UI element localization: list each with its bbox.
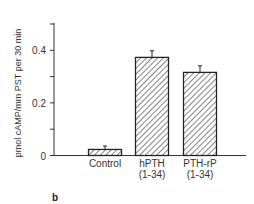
bar [184,72,217,155]
y-tick-label: 0.4 [32,45,46,56]
bars: ControlhPTH(1-34)PTH-rP(1-34) [89,51,217,180]
x-tick-sublabel: (1-34) [187,169,214,180]
bar-chart: 00.20.4 ControlhPTH(1-34)PTH-rP(1-34) pm… [0,0,254,204]
x-tick-sublabel: (1-34) [139,169,166,180]
y-axis-label: pmol cAMP/mm PST per 30 min [13,29,23,157]
y-ticks: 00.20.4 [32,24,54,162]
bar [89,149,122,155]
y-tick-label: 0.2 [32,98,46,109]
y-tick-label: 0 [40,151,46,162]
bar [136,57,169,155]
x-tick-label: PTH-rP [183,158,217,169]
panel-label: b [52,192,58,203]
x-tick-label: hPTH [139,158,165,169]
x-tick-label: Control [89,158,121,169]
